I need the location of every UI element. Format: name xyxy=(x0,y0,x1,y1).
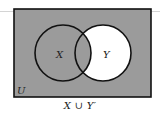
venn-diagram: X Y U xyxy=(0,0,160,100)
set-x-label: X xyxy=(55,49,64,60)
universe-label: U xyxy=(17,85,26,96)
diagram-caption: X ∪ Y′ xyxy=(0,100,160,111)
